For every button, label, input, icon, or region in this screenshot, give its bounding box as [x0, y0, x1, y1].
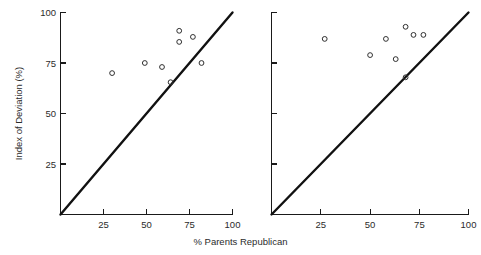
data-point	[411, 33, 416, 38]
right-x-tick-label-25: 25	[316, 219, 327, 230]
data-point	[160, 65, 165, 70]
y-axis-title: Index of Deviation (%)	[13, 67, 24, 160]
two-panel-scatter-figure: 100 75 50 25 25 50 75 100 Index of Devia…	[0, 0, 481, 255]
data-point	[177, 28, 182, 33]
right-panel: 25 50 75 100	[272, 12, 477, 230]
right-x-tick-label-50: 50	[365, 219, 376, 230]
left-x-tick-label-25: 25	[98, 219, 109, 230]
right-panel-identity-line	[272, 13, 469, 215]
x-axis-title: % Parents Republican	[194, 236, 288, 247]
left-panel-identity-line	[61, 13, 233, 215]
left-y-tick-label-50: 50	[45, 108, 56, 119]
left-panel-data-points	[110, 28, 204, 84]
left-panel: 100 75 50 25 25 50 75 100 Index of Devia…	[13, 7, 240, 230]
data-point	[322, 37, 327, 42]
left-x-tick-label-100: 100	[225, 219, 241, 230]
data-point	[199, 61, 204, 66]
data-point	[393, 57, 398, 62]
left-y-tick-label-25: 25	[45, 159, 56, 170]
data-point	[368, 53, 373, 58]
data-point	[191, 35, 196, 40]
left-y-tick-label-100: 100	[40, 7, 56, 18]
right-x-tick-label-75: 75	[414, 219, 425, 230]
right-x-tick-label-100: 100	[461, 219, 477, 230]
data-point	[110, 71, 115, 76]
data-point	[177, 40, 182, 45]
left-x-tick-label-50: 50	[141, 219, 152, 230]
data-point	[403, 24, 408, 29]
left-x-tick-label-75: 75	[184, 219, 195, 230]
data-point	[142, 61, 147, 66]
data-point	[421, 33, 426, 38]
data-point	[384, 37, 389, 42]
left-y-tick-label-75: 75	[45, 58, 56, 69]
